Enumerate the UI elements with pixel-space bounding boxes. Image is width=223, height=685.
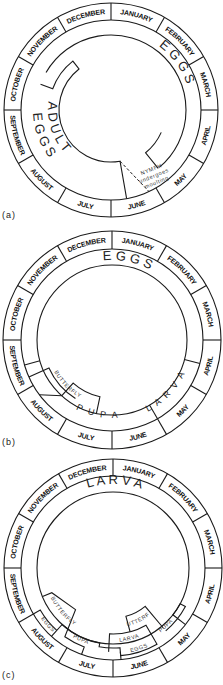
- month-label-may: MAY: [176, 631, 191, 646]
- month-divider: [189, 155, 204, 164]
- nymph-moulting-note: NYMPHundergoesmoulting: [136, 160, 173, 190]
- butterfly-lifecycle-diagram: JANUARYFEBRUARYMARCHAPRILMAYJUNEJULYAUGU…: [0, 0, 223, 685]
- month-label-july: JULY: [77, 431, 95, 442]
- month-divider: [59, 474, 68, 489]
- month-label-june: JUNE: [130, 659, 149, 670]
- month-label-july: JULY: [77, 199, 95, 210]
- month-divider: [18, 57, 33, 66]
- month-divider: [158, 419, 167, 435]
- month-divider: [159, 474, 168, 489]
- panel-b-single-generation-lifecycle: JANUARYFEBRUARYMARCHAPRILMAYJUNEJULYAUGU…: [2, 231, 221, 449]
- month-divider: [18, 386, 34, 395]
- stage-label-pupa: P U P A: [75, 402, 120, 420]
- stage-label-larva: L A R V A: [84, 472, 145, 492]
- stage-label-butterfly: BUTTERFLY: [50, 595, 78, 626]
- month-label-march: MARCH: [203, 529, 216, 556]
- month-divider: [193, 614, 208, 623]
- month-divider: [59, 648, 68, 663]
- month-label-july: JULY: [78, 659, 96, 670]
- month-label-november: NOVEMBER: [26, 25, 59, 58]
- month-label-august: AUGUST: [30, 167, 55, 192]
- month-divider: [58, 419, 67, 435]
- stage-label-eggs: EGGS: [130, 642, 149, 653]
- stage-labels: L A R V ABUTTERFLYEGGSPUPALARVABUTTERFLY…: [0, 0, 187, 653]
- stage-label-larva: L A R V A: [144, 368, 187, 413]
- panel-label-c: (c): [2, 670, 16, 680]
- butterfly-outer-link: [25, 361, 40, 365]
- month-divider: [156, 188, 165, 203]
- stage-labels: E G G SBUTTERFLYP U P AL A R V A: [53, 248, 188, 420]
- eggs-larva-boundary: [184, 359, 199, 363]
- month-band-inner-circle: [21, 476, 205, 660]
- month-label-june: JUNE: [127, 199, 146, 210]
- month-divider: [156, 17, 165, 32]
- month-divider: [19, 614, 34, 623]
- stage-label-eggs: EGGS: [40, 616, 56, 634]
- month-divider: [58, 246, 67, 262]
- panel-label-a: (a): [2, 210, 16, 220]
- month-label-april: APRIL: [200, 124, 212, 146]
- month-label-march: MARCH: [199, 71, 212, 98]
- month-label-may: MAY: [173, 172, 188, 187]
- panel-label-b: (b): [2, 437, 16, 447]
- month-divider: [18, 286, 34, 295]
- panel-a-cicada-lifecycle: JANUARYFEBRUARYMARCHAPRILMAYJUNEJULYAUGU…: [2, 3, 218, 220]
- month-label-june: JUNE: [129, 430, 148, 441]
- month-label-august: AUGUST: [29, 398, 54, 423]
- month-divider: [189, 57, 204, 66]
- stage-labels: E G G SA D U L TE G G SNYMPHundergoesmou…: [30, 35, 198, 191]
- month-divider: [58, 188, 67, 203]
- month-label-march: MARCH: [201, 301, 214, 328]
- month-label-april: APRIL: [202, 355, 214, 377]
- month-divider: [191, 286, 207, 295]
- month-label-april: APRIL: [204, 583, 216, 605]
- month-divider: [19, 514, 34, 523]
- panel-c-two-generation-lifecycle: JANUARYFEBRUARYMARCHAPRILMAYJUNEJULYAUGU…: [0, 0, 222, 680]
- month-divider: [159, 648, 168, 663]
- month-band-inner-circle: [21, 249, 203, 431]
- month-label-may: MAY: [175, 403, 190, 418]
- month-divider: [193, 514, 208, 523]
- month-divider: [191, 386, 207, 395]
- stage-label-butterfly: BUTTERFLY: [53, 369, 82, 398]
- stage-label-eggs: E G G S: [102, 248, 155, 272]
- month-divider: [158, 246, 167, 262]
- month-divider: [58, 17, 67, 32]
- stage-label-eggs: E G G S: [157, 36, 198, 85]
- month-divider: [18, 155, 33, 164]
